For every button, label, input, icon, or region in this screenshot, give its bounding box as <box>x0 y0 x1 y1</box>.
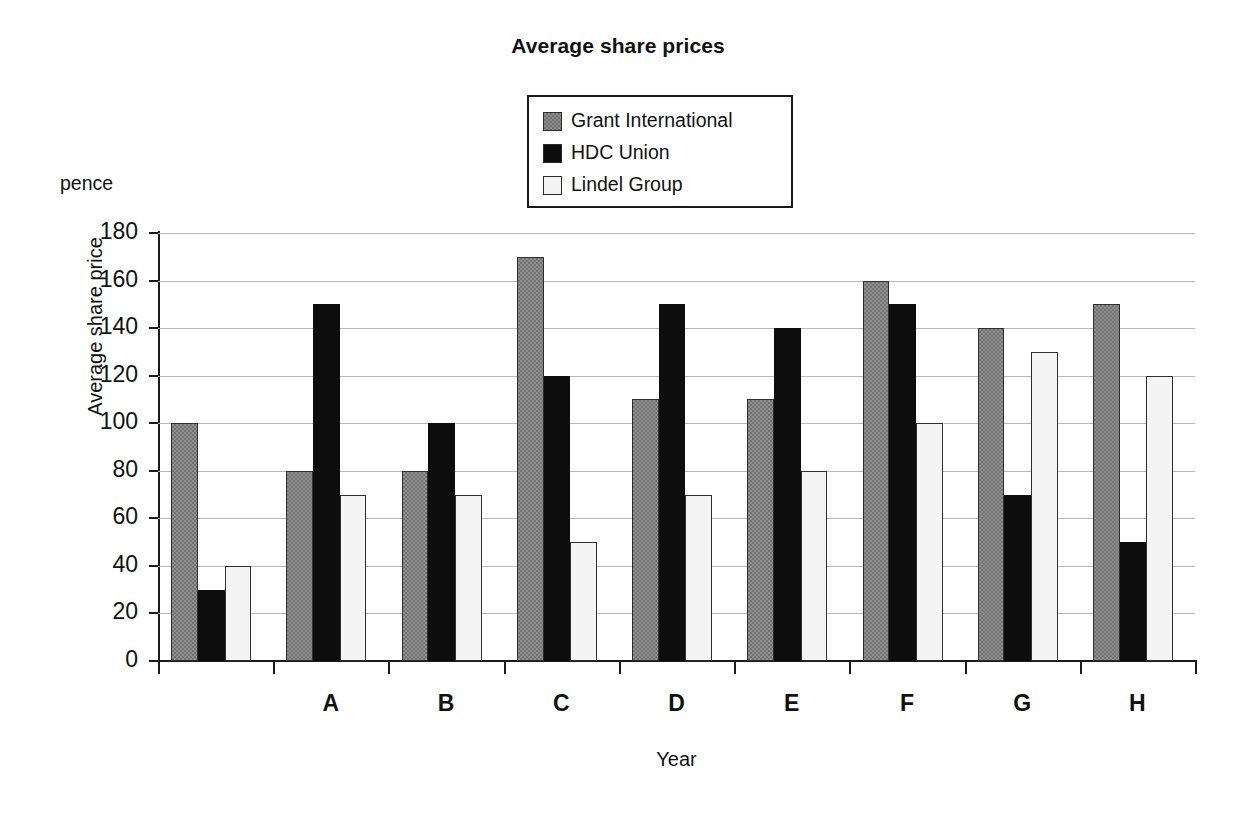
bar <box>978 328 1005 661</box>
x-axis-tick-mark <box>1195 662 1197 674</box>
x-axis-tick-mark <box>1080 662 1082 674</box>
y-axis-tick-label: 20 <box>46 600 138 623</box>
bar <box>1031 352 1058 661</box>
x-axis-tick-label: A <box>301 692 361 715</box>
bar <box>402 471 429 661</box>
x-axis-tick-mark <box>273 662 275 674</box>
chart-container: Average share prices Grant International… <box>0 0 1236 813</box>
x-axis-tick-label: H <box>1107 692 1167 715</box>
bar <box>747 399 774 661</box>
y-axis-tick-mark <box>149 280 158 282</box>
bar <box>313 304 340 661</box>
x-axis-tick-label: D <box>647 692 707 715</box>
bar <box>517 257 544 661</box>
x-axis-tick-label: F <box>877 692 937 715</box>
gridline <box>158 281 1195 282</box>
y-axis-tick-mark <box>149 565 158 567</box>
bar <box>863 281 890 661</box>
chart-title: Average share prices <box>0 34 1236 58</box>
y-axis-tick-label: 80 <box>46 458 138 481</box>
legend-item-hdc-union: HDC Union <box>543 137 781 169</box>
x-axis-tick-mark <box>158 662 160 674</box>
y-axis-tick-mark <box>149 612 158 614</box>
x-axis-tick-mark <box>504 662 506 674</box>
bar <box>171 423 198 661</box>
y-axis-tick-label: 180 <box>46 220 138 243</box>
gridline <box>158 233 1195 234</box>
grant-international-swatch-icon <box>543 112 562 131</box>
chart-legend: Grant International HDC Union Lindel Gro… <box>527 95 793 208</box>
bar <box>198 590 225 661</box>
y-axis-tick-mark <box>149 232 158 234</box>
bar <box>685 495 712 661</box>
bar <box>1120 542 1147 661</box>
hdc-union-swatch-icon <box>543 144 562 163</box>
bar <box>428 423 455 661</box>
bar <box>544 376 571 661</box>
bar <box>632 399 659 661</box>
x-axis-tick-label: G <box>992 692 1052 715</box>
x-axis-tick-mark <box>619 662 621 674</box>
y-axis-tick-label: 140 <box>46 315 138 338</box>
x-axis-tick-label: B <box>416 692 476 715</box>
bar <box>916 423 943 661</box>
bar <box>801 471 828 661</box>
bar <box>225 566 252 661</box>
y-axis-tick-mark <box>149 375 158 377</box>
y-axis-tick-mark <box>149 470 158 472</box>
y-axis-tick-mark <box>149 517 158 519</box>
bar <box>1093 304 1120 661</box>
y-axis-tick-label: 40 <box>46 553 138 576</box>
bar <box>570 542 597 661</box>
x-axis-tick-label: C <box>531 692 591 715</box>
y-axis-tick-mark <box>149 422 158 424</box>
bar <box>340 495 367 661</box>
y-axis-tick-label: 100 <box>46 410 138 433</box>
y-axis-tick-label: 60 <box>46 505 138 528</box>
x-axis-tick-mark <box>849 662 851 674</box>
y-axis-tick-mark <box>149 660 158 662</box>
lindel-group-swatch-icon <box>543 176 562 195</box>
y-axis-tick-label: 0 <box>46 648 138 671</box>
x-axis-tick-mark <box>965 662 967 674</box>
bar <box>659 304 686 661</box>
legend-label-lindel-group: Lindel Group <box>571 175 683 195</box>
bar <box>889 304 916 661</box>
y-axis-tick-label: 160 <box>46 268 138 291</box>
legend-item-lindel-group: Lindel Group <box>543 169 781 201</box>
bar <box>1004 495 1031 661</box>
legend-label-hdc-union: HDC Union <box>571 143 670 163</box>
bar <box>455 495 482 661</box>
x-axis-tick-label: E <box>762 692 822 715</box>
y-axis-tick-label: 120 <box>46 363 138 386</box>
plot-area <box>158 233 1195 661</box>
bar <box>774 328 801 661</box>
y-axis-tick-mark <box>149 327 158 329</box>
x-axis-tick-mark <box>388 662 390 674</box>
legend-label-grant-international: Grant International <box>571 111 733 131</box>
x-axis-title: Year <box>158 748 1195 771</box>
bar <box>1146 376 1173 661</box>
x-axis-tick-mark <box>734 662 736 674</box>
legend-item-grant-international: Grant International <box>543 105 781 137</box>
bar <box>286 471 313 661</box>
